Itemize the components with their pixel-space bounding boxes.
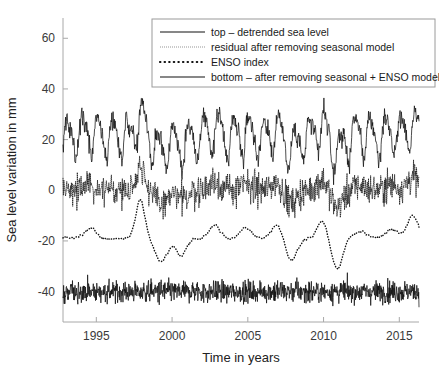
x-tick-label: 2010	[310, 329, 337, 343]
legend-label-2: ENSO index	[211, 56, 270, 68]
legend-label-3: bottom – after removing seasonal + ENSO …	[211, 71, 439, 83]
chart-legend: top – detrended sea levelresidual after …	[152, 19, 439, 87]
x-tick-label: 2005	[234, 329, 261, 343]
y-tick-label: 0	[48, 183, 55, 197]
series-2	[63, 199, 419, 268]
y-tick-label: -20	[38, 234, 56, 248]
figure-container: 6040200-20-40 19952000200520102015 Time …	[0, 0, 439, 367]
x-axis-ticks: 19952000200520102015	[83, 317, 413, 343]
y-tick-label: 20	[42, 133, 56, 147]
series-1	[63, 156, 419, 219]
y-axis-title: Sea level variation in mm	[4, 97, 19, 242]
series-0	[63, 98, 419, 185]
y-tick-label: -40	[38, 285, 56, 299]
series-3	[63, 273, 419, 307]
y-tick-label: 40	[42, 82, 56, 96]
x-tick-label: 2000	[159, 329, 186, 343]
y-tick-label: 60	[42, 31, 56, 45]
x-axis-title: Time in years	[202, 350, 280, 365]
legend-label-1: residual after removing seasonal model	[211, 41, 394, 53]
sea-level-chart: 6040200-20-40 19952000200520102015 Time …	[0, 0, 439, 367]
x-tick-label: 2015	[386, 329, 413, 343]
x-tick-label: 1995	[83, 329, 110, 343]
data-series-group	[63, 98, 419, 307]
legend-label-0: top – detrended sea level	[211, 26, 329, 38]
